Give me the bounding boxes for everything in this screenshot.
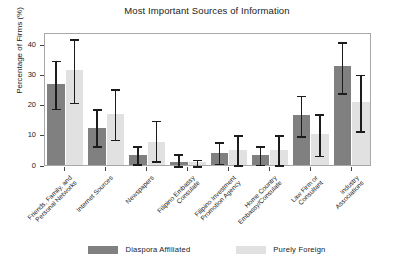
error-bar-cap <box>275 165 284 166</box>
chart-title: Most Important Sources of Information <box>0 5 414 16</box>
x-axis-tick <box>146 167 147 171</box>
x-axis-tick <box>351 167 352 171</box>
error-bar-cap <box>338 93 347 94</box>
error-bar-cap <box>174 154 183 155</box>
error-bar <box>74 40 75 103</box>
error-bar <box>319 115 320 157</box>
error-bar-cap <box>111 140 120 141</box>
y-axis-tick-mark <box>40 166 44 167</box>
error-bar <box>96 110 97 147</box>
error-bar-cap <box>133 164 142 165</box>
error-bar <box>156 122 157 163</box>
y-axis-label: Percentage of Firms (%) <box>15 0 24 126</box>
error-bar-cap <box>234 135 243 136</box>
x-axis-tick <box>187 167 188 171</box>
error-bar-cap <box>256 146 265 147</box>
error-bar-cap <box>93 146 102 147</box>
error-bar-cap <box>193 166 202 167</box>
error-bar <box>342 43 343 94</box>
error-bar-cap <box>152 121 161 122</box>
error-bar-cap <box>193 160 202 161</box>
error-bar-cap <box>356 75 365 76</box>
error-bar-cap <box>315 114 324 115</box>
error-bar <box>55 61 56 109</box>
error-bar <box>278 136 279 166</box>
y-axis-tick-mark <box>40 75 44 76</box>
error-bar-cap <box>52 61 61 62</box>
plot-inner <box>45 34 370 165</box>
error-bar-cap <box>93 109 102 110</box>
error-bar-cap <box>275 135 284 136</box>
error-bar-cap <box>315 156 324 157</box>
y-axis-tick-mark <box>40 105 44 106</box>
error-bar-cap <box>152 161 161 162</box>
error-bar <box>115 90 116 140</box>
error-bar-cap <box>256 165 265 166</box>
error-bar-cap <box>297 136 306 137</box>
x-axis-tick <box>310 167 311 171</box>
error-bar-cap <box>338 42 347 43</box>
error-bar-cap <box>215 142 224 143</box>
error-bar-cap <box>70 39 79 40</box>
x-axis-tick <box>105 167 106 171</box>
error-bar <box>178 155 179 167</box>
plot-area <box>44 33 371 166</box>
x-axis-tick <box>64 167 65 171</box>
error-bar-cap <box>215 164 224 165</box>
y-axis-tick-label: 10 <box>28 130 36 139</box>
y-axis-tick-mark <box>40 45 44 46</box>
error-bar-cap <box>356 131 365 132</box>
error-bar-cap <box>174 166 183 167</box>
error-bar-cap <box>111 89 120 90</box>
error-bar <box>360 75 361 132</box>
error-bar-cap <box>52 109 61 110</box>
error-bar <box>260 147 261 166</box>
error-bar-cap <box>234 165 243 166</box>
error-bar-cap <box>297 96 306 97</box>
error-bar-cap <box>133 146 142 147</box>
error-bar <box>301 97 302 138</box>
x-axis-tick <box>228 167 229 171</box>
error-bar <box>137 147 138 165</box>
x-axis-tick <box>269 167 270 171</box>
error-bar-cap <box>70 103 79 104</box>
y-axis-tick-label: 0 <box>32 161 36 170</box>
chart-figure: Most Important Sources of Information Pe… <box>0 0 414 267</box>
y-axis-tick-label: 30 <box>28 70 36 79</box>
error-bar <box>219 143 220 165</box>
y-axis-tick-mark <box>40 135 44 136</box>
y-axis-tick-label: 40 <box>28 40 36 49</box>
y-axis-tick-label: 20 <box>28 100 36 109</box>
error-bar <box>237 136 238 166</box>
